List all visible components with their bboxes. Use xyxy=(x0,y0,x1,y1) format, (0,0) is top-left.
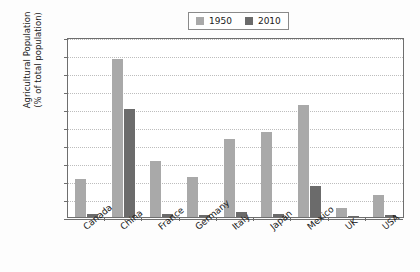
legend-entry-2010: 2010 xyxy=(245,17,281,26)
bar-mexico-1950 xyxy=(298,105,309,217)
bar-group-usa xyxy=(366,39,403,217)
x-label-cell: UK xyxy=(329,219,366,271)
x-label-cell: USA xyxy=(367,219,404,271)
bar-germany-1950 xyxy=(187,177,198,218)
x-label-cell: France xyxy=(142,219,179,271)
y-axis-title-line-2: (% of total population) xyxy=(33,12,44,108)
bar-group-china xyxy=(105,39,142,217)
x-label-cell: Italy xyxy=(217,219,254,271)
plot-area: 10.90.80.70.60.50.40.30.20.10 xyxy=(67,38,404,218)
bar-china-2010 xyxy=(124,109,135,217)
bar-uk-1950 xyxy=(336,208,347,217)
bar-groups xyxy=(68,39,403,217)
x-label-cell: Canada xyxy=(67,219,104,271)
y-axis-title-line-1: Agricultural Population xyxy=(22,12,33,109)
bar-group-france xyxy=(142,39,179,217)
bar-canada-1950 xyxy=(75,179,86,217)
x-label-cell: China xyxy=(104,219,141,271)
legend-swatch-1950-icon xyxy=(196,17,204,25)
bar-japan-1950 xyxy=(261,132,272,217)
x-tick-label-uk: UK xyxy=(344,217,359,232)
bar-group-germany xyxy=(180,39,217,217)
bar-group-japan xyxy=(254,39,291,217)
bar-group-mexico xyxy=(291,39,328,217)
bar-group-canada xyxy=(68,39,105,217)
chart-figure: 1950 2010 Agricultural Population (% of … xyxy=(0,0,420,272)
legend-label-2010: 2010 xyxy=(258,17,281,26)
bar-usa-1950 xyxy=(373,195,384,217)
legend-entry-1950: 1950 xyxy=(196,17,232,26)
bar-china-1950 xyxy=(112,59,123,217)
legend-swatch-2010-icon xyxy=(245,17,253,25)
x-label-cell: Germany xyxy=(179,219,216,271)
chart-legend: 1950 2010 xyxy=(188,12,289,30)
x-label-cell: Mexico xyxy=(292,219,329,271)
bar-france-1950 xyxy=(150,161,161,217)
bar-group-italy xyxy=(217,39,254,217)
x-label-cell: Japan xyxy=(254,219,291,271)
y-axis-title: Agricultural Population (% of total popu… xyxy=(21,0,45,150)
bar-group-uk xyxy=(329,39,366,217)
x-axis-labels: CanadaChinaFranceGermanyItalyJapanMexico… xyxy=(67,219,404,271)
legend-label-1950: 1950 xyxy=(209,17,232,26)
